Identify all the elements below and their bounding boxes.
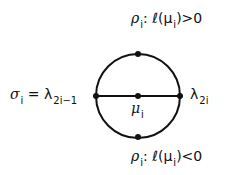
subscript: 2i xyxy=(199,95,208,106)
rho-symbol: ρ xyxy=(131,10,139,26)
point-left xyxy=(93,93,99,99)
rho-symbol: ρ xyxy=(131,148,139,164)
subscript: i xyxy=(21,95,24,106)
subscript: i xyxy=(140,19,143,30)
subscript: i xyxy=(141,109,144,120)
mu-symbol: μ xyxy=(131,100,140,116)
point-bottom xyxy=(135,134,141,140)
label-top: ρi: ℓ(μi)>0 xyxy=(131,10,202,26)
label-tail: )<0 xyxy=(176,148,202,164)
label-tail: )>0 xyxy=(176,10,202,26)
label-bottom: ρi: ℓ(μi)<0 xyxy=(131,148,202,164)
label-left: σi = λ2i−1 xyxy=(10,86,77,102)
subscript: 2i−1 xyxy=(53,95,77,106)
subscript: i xyxy=(173,19,176,30)
label-right: λ2i xyxy=(190,86,208,102)
point-center xyxy=(135,93,141,99)
subscript: i xyxy=(140,157,143,168)
label-center: μi xyxy=(131,100,144,116)
lambda-eq: = λ xyxy=(23,86,52,102)
label-text: : ℓ(μ xyxy=(143,148,172,164)
sigma-symbol: σ xyxy=(10,86,20,102)
label-text: : ℓ(μ xyxy=(143,10,172,26)
subscript: i xyxy=(173,157,176,168)
point-top xyxy=(135,51,141,57)
lambda-symbol: λ xyxy=(190,86,198,102)
point-right xyxy=(177,93,183,99)
